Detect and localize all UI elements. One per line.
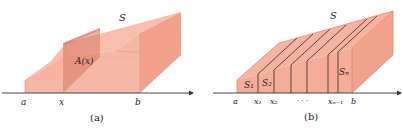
axis-label-x1: x₁ [254,97,262,106]
slab-label-s1: S₁ [244,80,254,90]
axis-label-dots: · · · [297,97,308,105]
panel-b: S S₁ S₂ Sₙ a x₁ x₂ · · · xₙ₋₁ b (b) [213,10,401,122]
caption-a: (a) [90,112,104,123]
cross-section-label: A(x) [74,56,94,66]
slab-label-s2: S₂ [262,78,272,88]
panel-a: S A(x) a x b (a) [2,12,193,123]
axis-label-b: b [135,97,141,107]
solid-label-s-b: S [330,10,337,21]
volume-by-slicing-figure: S A(x) a x b (a) S S₁ S₂ Sₙ a [0,0,403,128]
slab-label-sn: Sₙ [339,67,349,77]
solid-label-s: S [119,12,126,23]
axis-label-xn-1: xₙ₋₁ [328,97,343,106]
axis-label-x2: x₂ [270,97,278,106]
axis-label-a-b: a [233,97,238,106]
axis-label-x: x [59,97,64,107]
axis-label-a: a [21,97,26,107]
caption-b: (b) [304,111,318,122]
axis-label-b-b: b [351,97,356,106]
